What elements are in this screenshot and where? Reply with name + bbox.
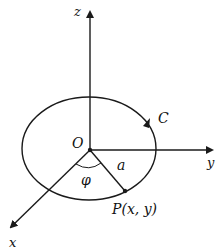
point-p	[123, 189, 127, 193]
angle-label: φ	[81, 172, 91, 188]
angle-arc	[76, 163, 101, 168]
curve-label: C	[158, 110, 169, 126]
origin-label: O	[72, 135, 84, 151]
radius-label: a	[117, 157, 125, 173]
x-axis	[11, 150, 90, 227]
x-axis-label: x	[9, 235, 17, 249]
origin-point	[88, 148, 92, 152]
circle-path-diagram: z y x O C a φ P(x, y)	[0, 0, 219, 249]
z-axis-label: z	[73, 4, 81, 19]
y-axis-label: y	[206, 155, 215, 170]
point-label: P(x, y)	[111, 201, 157, 217]
